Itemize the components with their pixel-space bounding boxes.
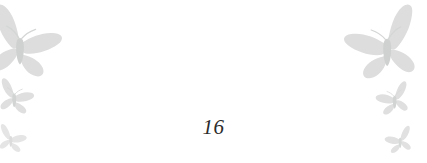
butterfly-icon-medium-right: [369, 79, 415, 117]
page-number: 16: [0, 114, 427, 140]
book-page-footer: 16: [0, 0, 427, 163]
butterfly-icon-medium-left: [0, 76, 40, 116]
butterfly-icon-large-top-left: [0, 2, 68, 80]
butterfly-icon-large-top-right: [337, 2, 423, 82]
